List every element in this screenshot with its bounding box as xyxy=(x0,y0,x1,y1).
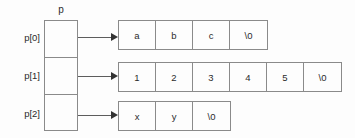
string-cell: 2 xyxy=(156,63,193,91)
string-cell: 1 xyxy=(119,63,156,91)
index-label-p1: p[1] xyxy=(8,70,40,81)
pointer-array-diagram: p p[0] p[1] p[2] a b c \0 1 2 3 4 5 \0 x… xyxy=(0,0,355,138)
arrow-p0-icon xyxy=(78,33,118,42)
string-cell: b xyxy=(156,21,193,49)
arrow-p2-icon xyxy=(78,111,118,120)
string-cell: x xyxy=(119,102,156,130)
index-label-p2: p[2] xyxy=(8,108,40,119)
arrow-head xyxy=(111,111,118,119)
string-cell: a xyxy=(119,21,156,49)
arrow-shaft xyxy=(78,37,111,38)
string-cell: \0 xyxy=(230,21,267,49)
string-cell: \0 xyxy=(193,102,230,130)
string-cell: 4 xyxy=(230,63,267,91)
pointer-cell-1 xyxy=(45,58,77,95)
string-row-0: a b c \0 xyxy=(118,20,268,50)
arrow-p1-icon xyxy=(78,72,118,81)
pointer-array xyxy=(44,20,78,131)
string-row-2: x y \0 xyxy=(118,101,231,131)
arrow-shaft xyxy=(78,115,111,116)
pointer-cell-2 xyxy=(45,95,77,130)
string-cell: \0 xyxy=(304,63,341,91)
arrow-head xyxy=(111,33,118,41)
pointer-array-caption: p xyxy=(44,4,78,16)
arrow-shaft xyxy=(78,76,111,77)
string-row-1: 1 2 3 4 5 \0 xyxy=(118,62,342,92)
pointer-cell-0 xyxy=(45,21,77,58)
string-cell: 3 xyxy=(193,63,230,91)
string-cell: c xyxy=(193,21,230,49)
string-cell: y xyxy=(156,102,193,130)
index-label-p0: p[0] xyxy=(8,32,40,43)
arrow-head xyxy=(111,72,118,80)
string-cell: 5 xyxy=(267,63,304,91)
